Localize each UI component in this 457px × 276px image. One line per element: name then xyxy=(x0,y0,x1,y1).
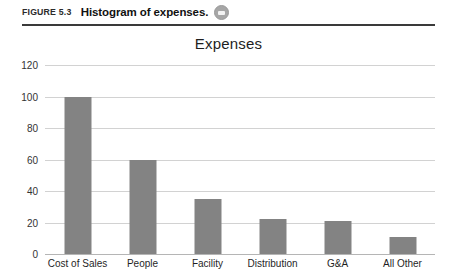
bar[interactable] xyxy=(259,219,286,254)
figure-caption: FIGURE 5.3 Histogram of expenses. xyxy=(22,4,229,19)
y-axis-tick-label: 80 xyxy=(27,123,38,134)
y-axis-tick-label: 120 xyxy=(21,60,38,71)
x-axis-category-label: G&A xyxy=(327,258,348,269)
bar-group: Distribution xyxy=(240,65,305,254)
media-disc-icon[interactable] xyxy=(214,5,229,20)
y-axis-tick-label: 60 xyxy=(27,154,38,165)
bar-group: Cost of Sales xyxy=(45,65,110,254)
gridline-0: 0 xyxy=(45,254,435,255)
bar[interactable] xyxy=(389,237,416,254)
bar-group: G&A xyxy=(305,65,370,254)
bar[interactable] xyxy=(194,199,221,254)
bar-series: Cost of SalesPeopleFacilityDistributionG… xyxy=(45,65,435,254)
x-axis-category-label: Distribution xyxy=(247,258,297,269)
plot-area: 020406080100120 Cost of SalesPeopleFacil… xyxy=(45,65,435,254)
media-disc-icon-glyph xyxy=(218,11,225,15)
expenses-bar-chart: Expenses 020406080100120 Cost of SalesPe… xyxy=(0,27,457,276)
x-axis-category-label: Cost of Sales xyxy=(48,258,107,269)
figure-header: FIGURE 5.3 Histogram of expenses. xyxy=(0,0,457,27)
y-axis-tick-label: 0 xyxy=(32,249,38,260)
bar-group: People xyxy=(110,65,175,254)
figure-caption-text: Histogram of expenses. xyxy=(81,6,209,18)
bar[interactable] xyxy=(324,221,351,254)
bar[interactable] xyxy=(129,160,156,255)
header-divider xyxy=(22,24,435,26)
y-axis-tick-label: 20 xyxy=(27,217,38,228)
chart-title: Expenses xyxy=(0,35,457,52)
bar-group: All Other xyxy=(370,65,435,254)
bar[interactable] xyxy=(64,97,91,255)
x-axis-category-label: People xyxy=(127,258,158,269)
bar-group: Facility xyxy=(175,65,240,254)
figure-number: FIGURE 5.3 xyxy=(22,6,71,17)
y-axis-tick-label: 100 xyxy=(21,91,38,102)
x-axis-category-label: Facility xyxy=(192,258,223,269)
y-axis-tick-label: 40 xyxy=(27,186,38,197)
x-axis-category-label: All Other xyxy=(383,258,422,269)
